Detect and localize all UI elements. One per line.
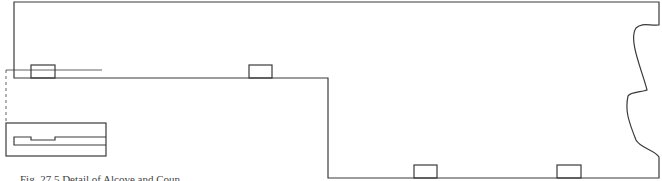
technical-drawing [0, 0, 662, 181]
tab-bottom-2 [557, 165, 581, 178]
section-slot [14, 137, 106, 145]
tab-middle [249, 65, 272, 78]
figure-caption: Fig. 27.5 Detail of Alcove and Coun [20, 174, 180, 181]
tab-left [31, 65, 55, 78]
section-detail-box [6, 123, 106, 156]
tab-bottom-1 [414, 165, 437, 178]
main-outline [14, 2, 659, 178]
